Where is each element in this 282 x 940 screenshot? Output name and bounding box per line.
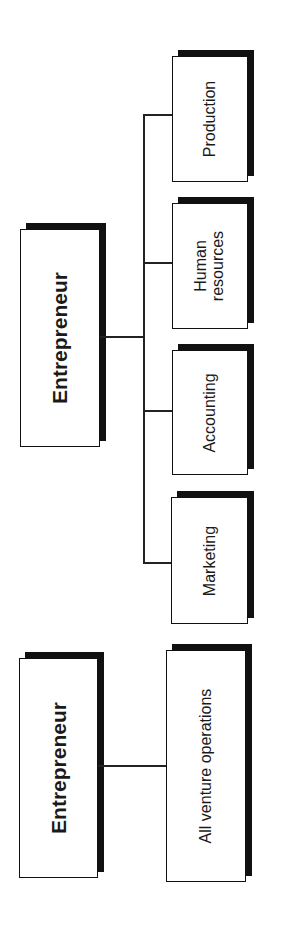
department-label-human-resources: Human resources	[193, 231, 227, 301]
connector-branch-production	[143, 114, 172, 116]
department-box-accounting: Accounting	[172, 350, 248, 475]
department-label-marketing: Marketing	[201, 525, 218, 595]
department-box-human-resources: Human resources	[172, 203, 248, 329]
entrepreneur-box-simple: Entrepreneur	[19, 658, 98, 878]
department-box-marketing: Marketing	[171, 497, 248, 624]
connector-vertical-bus	[143, 114, 145, 563]
operations-label: All venture operations	[198, 689, 215, 844]
operations-box: All venture operations	[166, 650, 246, 882]
department-label-production: Production	[202, 81, 219, 158]
connector-branch-accounting	[143, 410, 172, 412]
connector-branch-marketing	[143, 562, 172, 564]
connector-branch-human-resources	[143, 262, 172, 264]
connector-root-to-operations	[98, 765, 167, 767]
org-chart-diagram: Entrepreneur Production Human resources …	[0, 0, 282, 940]
entrepreneur-box-functional: Entrepreneur	[20, 229, 100, 447]
connector-root-to-bus	[100, 336, 144, 338]
entrepreneur-label-simple: Entrepreneur	[47, 702, 69, 834]
department-box-production: Production	[172, 56, 248, 182]
department-label-accounting: Accounting	[202, 373, 219, 452]
entrepreneur-label: Entrepreneur	[49, 272, 71, 404]
